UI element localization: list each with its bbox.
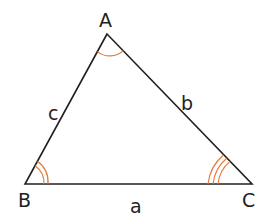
vertex-c-label: C — [242, 189, 255, 211]
angle-b-arc-1 — [38, 161, 49, 184]
angle-b-arc-2 — [35, 166, 44, 184]
triangle-shape — [25, 34, 252, 184]
triangle-diagram: A B C a b c — [0, 0, 271, 221]
vertex-a-label: A — [99, 9, 112, 31]
side-c-label: c — [48, 102, 58, 124]
angle-c-arc-1 — [208, 155, 224, 184]
side-a-label: a — [130, 195, 142, 217]
side-b-label: b — [181, 92, 193, 114]
angle-c-arc-2 — [213, 158, 227, 184]
angle-a-arc — [97, 51, 123, 56]
vertex-b-label: B — [18, 189, 31, 211]
